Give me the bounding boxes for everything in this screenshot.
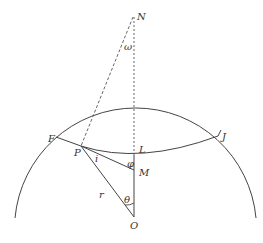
label-i: i xyxy=(95,153,98,164)
label-phi: φ xyxy=(127,158,134,169)
label-J: J xyxy=(220,131,227,142)
label-F: F xyxy=(47,133,56,144)
curve-P-L-J xyxy=(81,136,218,154)
label-M: M xyxy=(138,167,150,178)
tick-J xyxy=(218,130,221,136)
line-P-O xyxy=(81,146,134,217)
label-omega: ω xyxy=(124,41,132,52)
label-N: N xyxy=(136,11,147,22)
label-L: L xyxy=(138,144,146,155)
line-F-P xyxy=(56,137,81,146)
geometry-diagram: N ω F P i L J φ M r θ O xyxy=(0,0,263,243)
outer-circle-arc xyxy=(15,108,256,218)
label-theta: θ xyxy=(124,194,130,205)
label-r: r xyxy=(99,189,105,200)
diagram-svg: N ω F P i L J φ M r θ O xyxy=(0,0,263,243)
dashed-line-N-P xyxy=(81,17,133,146)
label-P: P xyxy=(73,147,81,158)
label-O: O xyxy=(130,220,138,231)
